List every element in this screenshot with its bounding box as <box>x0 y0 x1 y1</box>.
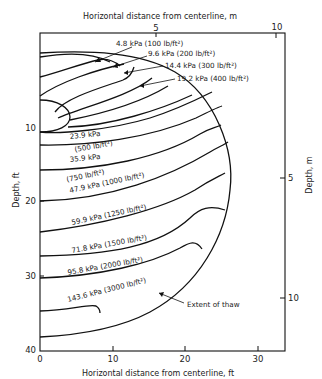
label-19-2: 19.2 kPa (400 lb/ft²) <box>177 74 249 83</box>
label-23-9-a: 23.9 kPa <box>69 129 101 141</box>
label-14-4: 14.4 kPa (300 lb/ft²) <box>165 61 237 70</box>
top-tick-10: 10 <box>272 22 283 32</box>
thaw-pressure-diagram: Horizontal distance from centerline, m 5… <box>0 0 322 379</box>
left-tick-30: 30 <box>25 271 36 281</box>
label-35-9-a: 35.9 kPa <box>69 152 101 164</box>
top-axis-title: Horizontal distance from centerline, m <box>83 12 237 21</box>
label-extent-of-thaw: Extent of thaw <box>187 300 240 309</box>
right-tick-10: 10 <box>288 293 299 303</box>
left-axis-title: Depth, ft <box>12 172 21 207</box>
label-4-8: 4.8 kPa (100 lb/ft²) <box>116 39 183 48</box>
bottom-tick-0: 0 <box>37 354 42 364</box>
contour-a <box>70 86 168 120</box>
bottom-tick-30: 30 <box>253 354 264 364</box>
right-axis-title: Depth, m <box>305 156 314 193</box>
bottom-tick-20: 20 <box>180 354 191 364</box>
label-59-9: 59.9 kPa (1250 lb/ft²) <box>71 202 148 227</box>
bottom-axis-title: Horizontal distance from centerline, ft <box>82 369 234 378</box>
contour-9-6 <box>40 64 124 96</box>
right-tick-5: 5 <box>288 173 293 183</box>
contour-3000 <box>40 306 100 313</box>
bottom-tick-10: 10 <box>108 354 119 364</box>
left-tick-20: 20 <box>25 196 36 206</box>
left-tick-40: 40 <box>25 345 36 355</box>
contour-35-9 <box>40 106 222 145</box>
center-bulb <box>40 100 70 132</box>
contour-b <box>68 95 192 127</box>
label-143-6: 143.6 kPa (3000 lb/ft²) <box>66 276 147 304</box>
label-9-6: 9.6 kPa (200 lb/ft²) <box>148 49 215 58</box>
top-tick-5: 5 <box>153 23 158 33</box>
left-tick-10: 10 <box>25 123 36 133</box>
